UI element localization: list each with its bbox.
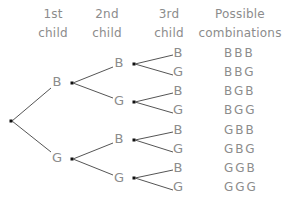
combination-gbg: GBG	[224, 142, 257, 156]
header-line1: 1st	[33, 5, 73, 24]
combination-bgb: BGB	[224, 84, 256, 98]
branch-line	[73, 143, 113, 159]
header-2nd-child: 2nd child	[87, 5, 127, 43]
level3-node-b: B	[174, 123, 183, 137]
branch-line	[12, 121, 51, 152]
header-line2: child	[149, 24, 189, 43]
branch-line	[135, 170, 173, 178]
branch-line	[135, 64, 173, 75]
level2-node-b: B	[115, 56, 124, 70]
combination-bbb: BBB	[224, 46, 255, 60]
header-line2: child	[87, 24, 127, 43]
level3-node-b: B	[174, 46, 183, 60]
branch-line	[135, 132, 173, 140]
level3-node-g: G	[173, 103, 183, 117]
header-3rd-child: 3rd child	[149, 5, 189, 43]
branch-line	[135, 140, 173, 152]
level2-node-g: G	[114, 171, 124, 185]
branch-line	[135, 178, 173, 190]
combination-gbb: GBB	[224, 123, 256, 137]
header-line2: child	[33, 24, 73, 43]
tree-diagram: 1st child 2nd child 3rd child Possible c…	[0, 0, 282, 200]
header-line2: combinations	[195, 24, 282, 43]
header-line1: Possible	[195, 5, 282, 24]
branch-line	[12, 88, 51, 121]
level3-node-g: G	[173, 65, 183, 79]
level1-node-b: B	[53, 75, 62, 89]
level3-node-g: G	[173, 142, 183, 156]
header-line1: 3rd	[149, 5, 189, 24]
branch-line	[73, 83, 113, 98]
level3-node-b: B	[174, 84, 183, 98]
combination-bbg: BBG	[224, 65, 256, 79]
header-1st-child: 1st child	[33, 5, 73, 43]
header-line1: 2nd	[87, 5, 127, 24]
combination-ggg: GGG	[224, 180, 258, 194]
header-possible-combinations: Possible combinations	[195, 5, 282, 43]
level2-node-b: B	[115, 132, 124, 146]
branch-line	[73, 67, 113, 83]
branch-line	[135, 55, 173, 64]
branch-line	[73, 159, 113, 175]
level3-node-b: B	[174, 161, 183, 175]
level3-node-g: G	[173, 180, 183, 194]
branch-line	[135, 102, 173, 113]
branch-line	[135, 93, 173, 102]
level2-node-g: G	[114, 94, 124, 108]
combination-bgg: BGG	[224, 103, 257, 117]
combination-ggb: GGB	[224, 161, 257, 175]
level1-node-g: G	[52, 151, 62, 165]
